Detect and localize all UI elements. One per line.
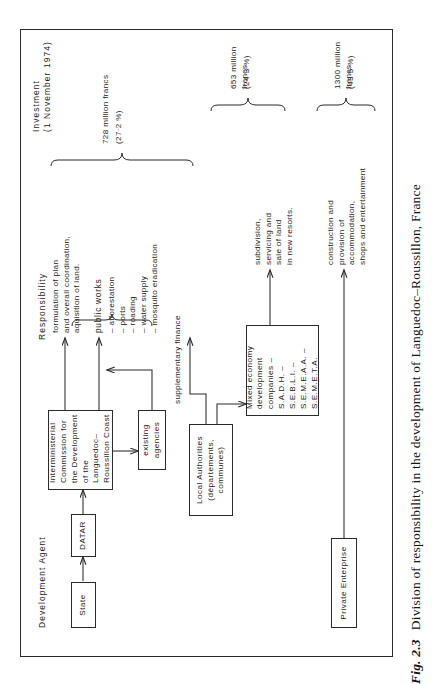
diagram-frame: Development Agent Responsibility Investm…	[20, 29, 393, 657]
node-interministerial-commission[interactable]: Interministerial Commission for the Deve…	[48, 410, 113, 490]
edge-agencies-to-publicworks	[107, 370, 152, 411]
brace-investment-3	[317, 98, 375, 111]
responsibility-subdivision: subdivision, servicing and sale of land …	[253, 207, 296, 265]
edge-localauth-to-mixedeconomy	[217, 404, 246, 425]
column-header-responsibility: Responsibility	[37, 273, 48, 340]
edge-label-supplementary-finance: supplementary finance	[173, 315, 184, 404]
responsibility-construction: construction and provision of accommodat…	[326, 168, 369, 265]
column-header-investment: Investment (1 November 1974)	[31, 41, 53, 132]
figure-caption: Fig. 2.3 Division of responsibility in t…	[401, 0, 431, 684]
investment-share-2: (24·3 %)	[242, 55, 253, 89]
brace-investment-1	[51, 153, 193, 166]
responsibility-public-works-items: – afforestation – ports – roading – wate…	[107, 244, 160, 333]
responsibility-planning: formulation of plan and overall coordina…	[51, 236, 83, 333]
node-existing-agencies[interactable]: existing agencies	[138, 410, 166, 470]
node-state[interactable]: State	[71, 582, 96, 628]
figure-caption-text: Division of responsibility in the develo…	[408, 184, 424, 630]
node-local-authorities[interactable]: Local Authorities (départements, commune…	[189, 424, 233, 516]
investment-share-1: (27·2 %)	[114, 110, 125, 144]
edge-localauth-supplementary-finance	[190, 338, 206, 425]
node-private-enterprise[interactable]: Private Enterprise	[331, 538, 357, 628]
figure-number: Fig. 2.3	[408, 639, 424, 684]
figure-page: Development Agent Responsibility Investm…	[0, 0, 435, 684]
investment-share-3: (43·5 %)	[346, 55, 357, 89]
node-mixed-economy-companies[interactable]: Mixed economy development companies – S.…	[246, 325, 319, 416]
brace-investment-2	[211, 98, 285, 111]
investment-amount-1: 728 million francs	[101, 75, 112, 144]
diagram-canvas: Development Agent Responsibility Investm…	[21, 30, 392, 656]
node-datar[interactable]: DATAR	[71, 514, 96, 557]
responsibility-public-works-title: public works	[93, 279, 104, 333]
column-header-development-agent: Development Agent	[37, 536, 48, 628]
